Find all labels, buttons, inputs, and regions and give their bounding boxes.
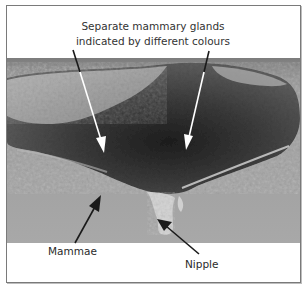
mammae-label: Mammae [48, 244, 97, 259]
figure-caption: Separate mammary glands indicated by dif… [0, 19, 306, 49]
nipple-label: Nipple [185, 257, 218, 272]
caption-line-2: indicated by different colours [0, 34, 306, 49]
caption-line-1: Separate mammary glands [0, 19, 306, 34]
udder-photo [7, 58, 300, 243]
